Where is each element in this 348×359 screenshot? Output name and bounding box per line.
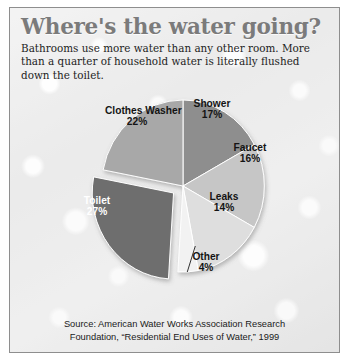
pie-label-clothes-washer-value: 22%	[105, 116, 169, 128]
deck-text: Bathrooms use more water than any other …	[10, 42, 339, 82]
panel-content: Where's the water going? Bathrooms use m…	[10, 8, 339, 352]
pie-label-leaks: Leaks 14%	[202, 191, 246, 214]
pie-label-other: Other 4%	[183, 251, 229, 274]
page-title: Where's the water going?	[10, 8, 339, 39]
pie-label-faucet-value: 16%	[225, 153, 275, 165]
infographic-panel: Where's the water going? Bathrooms use m…	[9, 7, 340, 353]
source-line-2: Foundation, “Residential End Uses of Wat…	[70, 332, 279, 342]
source-note: Source: American Water Works Association…	[10, 318, 339, 343]
pie-label-shower: Shower 17%	[186, 98, 238, 121]
pie-label-toilet-name: Toilet	[84, 195, 110, 206]
pie-label-other-value: 4%	[183, 262, 229, 274]
pie-label-leaks-value: 14%	[202, 202, 246, 214]
pie-label-shower-name: Shower	[194, 98, 231, 109]
pie-label-toilet: Toilet 27%	[69, 195, 125, 218]
pie-label-faucet: Faucet 16%	[225, 142, 275, 165]
pie-label-clothes-washer-name: Clothes Washer	[105, 105, 182, 116]
pie-label-clothes-washer: Clothes Washer 22%	[105, 105, 169, 128]
pie-label-toilet-value: 27%	[69, 206, 125, 218]
pie-label-faucet-name: Faucet	[234, 142, 267, 153]
pie-label-shower-value: 17%	[186, 109, 238, 121]
pie-label-leaks-name: Leaks	[210, 191, 239, 202]
source-line-1: Source: American Water Works Association…	[64, 319, 285, 329]
pie-slice-toilet	[92, 177, 173, 279]
pie-slice-toilet-group	[92, 177, 173, 279]
infographic-root: Where's the water going? Bathrooms use m…	[0, 0, 348, 359]
pie-label-other-name: Other	[192, 251, 219, 262]
pie-chart: Clothes Washer 22% Shower 17% Faucet 16%…	[10, 83, 339, 295]
